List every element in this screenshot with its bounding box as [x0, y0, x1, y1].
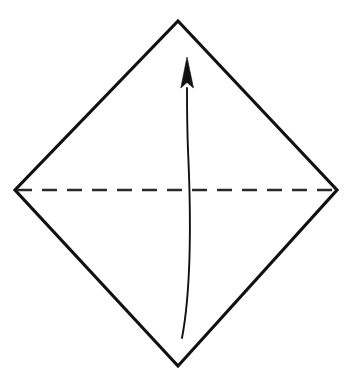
fold-diagram-canvas: Origami fold step diagram — [0, 0, 346, 385]
origami-fold-diagram: Origami fold step diagram — [0, 0, 346, 385]
